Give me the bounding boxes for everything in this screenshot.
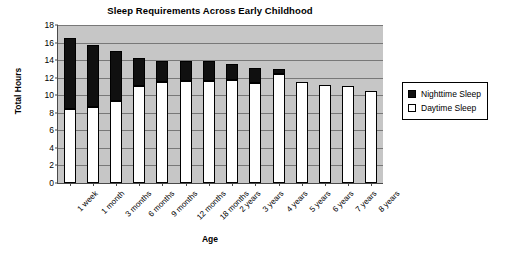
bar-group bbox=[133, 57, 145, 183]
x-tick-label: 4 years bbox=[284, 189, 309, 214]
bar-segment-daytime bbox=[133, 86, 145, 183]
x-axis-title: Age bbox=[150, 234, 270, 244]
gridline bbox=[58, 95, 383, 96]
y-tick-mark bbox=[55, 183, 58, 184]
legend-item: Nighttime Sleep bbox=[408, 87, 481, 101]
legend-swatch-night-icon bbox=[408, 90, 416, 98]
bar-segment-daytime bbox=[249, 83, 261, 183]
bar-segment-nighttime bbox=[249, 68, 261, 83]
y-tick-mark bbox=[55, 60, 58, 61]
bar-segment-daytime bbox=[365, 91, 377, 183]
x-tick-mark bbox=[162, 183, 163, 186]
gridline bbox=[58, 148, 383, 149]
x-tick-label: 1 month bbox=[99, 189, 126, 216]
gridline bbox=[58, 113, 383, 114]
bar-segment-nighttime bbox=[203, 61, 215, 81]
y-tick-label: 6 bbox=[49, 125, 54, 135]
y-tick-label: 8 bbox=[49, 108, 54, 118]
x-tick-mark bbox=[325, 183, 326, 186]
x-tick-mark bbox=[279, 183, 280, 186]
y-tick-mark bbox=[55, 147, 58, 148]
bar-group bbox=[110, 51, 122, 183]
x-tick-mark bbox=[255, 183, 256, 186]
bar-segment-daytime bbox=[64, 109, 76, 183]
bar-segment-daytime bbox=[87, 107, 99, 183]
y-tick-label: 16 bbox=[45, 38, 54, 48]
gridline bbox=[58, 78, 383, 79]
x-tick-mark bbox=[70, 183, 71, 186]
bar-segment-nighttime bbox=[180, 61, 192, 81]
x-tick-mark bbox=[371, 183, 372, 186]
y-tick-mark bbox=[55, 42, 58, 43]
x-tick-label: 3 years bbox=[261, 189, 286, 214]
y-tick-mark bbox=[55, 112, 58, 113]
gridline bbox=[58, 60, 383, 61]
x-tick-label: 5 years bbox=[307, 189, 332, 214]
plot-area: 024681012141618 1 week1 month3 months6 m… bbox=[57, 25, 383, 184]
gridline bbox=[58, 25, 383, 26]
y-tick-label: 0 bbox=[49, 178, 54, 188]
x-tick-mark bbox=[232, 183, 233, 186]
bar-segment-nighttime bbox=[87, 45, 99, 106]
bar-segment-nighttime bbox=[133, 58, 145, 86]
y-tick-label: 2 bbox=[49, 160, 54, 170]
bar-group bbox=[64, 38, 76, 183]
y-tick-mark bbox=[55, 130, 58, 131]
x-tick-mark bbox=[209, 183, 210, 186]
chart-title: Sleep Requirements Across Early Childhoo… bbox=[60, 5, 360, 16]
bar-segment-daytime bbox=[180, 81, 192, 183]
bar-group bbox=[203, 61, 215, 183]
bar-segment-nighttime bbox=[110, 51, 122, 100]
bar-group bbox=[156, 61, 168, 183]
y-tick-mark bbox=[55, 25, 58, 26]
bar-segment-daytime bbox=[342, 86, 354, 183]
y-tick-label: 18 bbox=[45, 20, 54, 30]
legend-swatch-day-icon bbox=[408, 104, 416, 112]
y-tick-mark bbox=[55, 165, 58, 166]
x-tick-mark bbox=[186, 183, 187, 186]
y-tick-mark bbox=[55, 95, 58, 96]
legend-label: Nighttime Sleep bbox=[421, 89, 481, 99]
x-tick-label: 1 week bbox=[75, 189, 99, 213]
x-tick-mark bbox=[302, 183, 303, 186]
legend-label: Daytime Sleep bbox=[421, 103, 476, 113]
y-tick-mark bbox=[55, 77, 58, 78]
x-tick-label: 6 years bbox=[331, 189, 356, 214]
bar-segment-daytime bbox=[110, 101, 122, 184]
y-tick-label: 12 bbox=[45, 73, 54, 83]
bar-segment-daytime bbox=[319, 85, 331, 183]
bar-group bbox=[365, 91, 377, 183]
y-axis-title: Total Hours bbox=[13, 51, 23, 131]
gridline bbox=[58, 43, 383, 44]
bar-group bbox=[273, 69, 285, 183]
bar-segment-daytime bbox=[156, 82, 168, 183]
x-tick-label: 8 years bbox=[377, 189, 402, 214]
bar-group bbox=[342, 86, 354, 183]
bar-segment-daytime bbox=[296, 82, 308, 183]
bar-segment-nighttime bbox=[156, 61, 168, 82]
bar-group bbox=[87, 45, 99, 183]
bar-segment-nighttime bbox=[64, 38, 76, 109]
bar-group bbox=[319, 85, 331, 183]
x-tick-mark bbox=[348, 183, 349, 186]
bar-segment-daytime bbox=[226, 80, 238, 183]
bar-segment-daytime bbox=[273, 74, 285, 183]
bar-group bbox=[180, 61, 192, 183]
x-tick-mark bbox=[139, 183, 140, 186]
bar-group bbox=[296, 82, 308, 183]
gridline bbox=[58, 130, 383, 131]
y-tick-label: 14 bbox=[45, 55, 54, 65]
bar-group bbox=[226, 64, 238, 183]
bar-segment-nighttime bbox=[226, 64, 238, 81]
x-tick-label: 7 years bbox=[354, 189, 379, 214]
chart-legend: Nighttime SleepDaytime Sleep bbox=[402, 82, 488, 120]
bar-segment-daytime bbox=[203, 81, 215, 183]
x-tick-mark bbox=[116, 183, 117, 186]
x-tick-mark bbox=[93, 183, 94, 186]
y-tick-label: 10 bbox=[45, 90, 54, 100]
chart-container: Sleep Requirements Across Early Childhoo… bbox=[0, 0, 513, 257]
gridline bbox=[58, 165, 383, 166]
legend-item: Daytime Sleep bbox=[408, 101, 481, 115]
bar-group bbox=[249, 68, 261, 183]
y-tick-label: 4 bbox=[49, 143, 54, 153]
